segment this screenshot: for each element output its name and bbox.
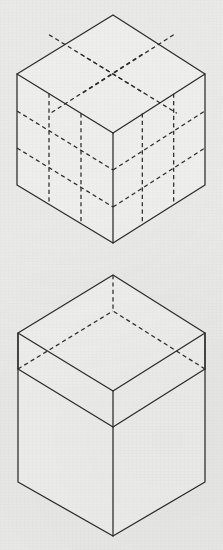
figure-bottom-tall-box [18, 275, 205, 536]
isometric-figures-svg [0, 0, 223, 550]
figure-sheet [0, 0, 223, 550]
figure-top-subdivided-cube [17, 15, 205, 243]
